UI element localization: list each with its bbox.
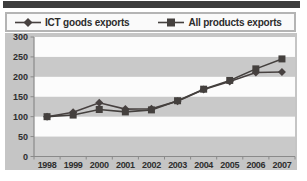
svg-text:300: 300 (13, 33, 28, 42)
legend-item-ict-goods-exports: ICT goods exports (15, 17, 129, 28)
svg-text:2001: 2001 (116, 160, 135, 170)
legend-label-ict-goods-exports: ICT goods exports (45, 17, 129, 28)
chart-legend: ICT goods exports All products exports (5, 12, 296, 32)
legend-item-all-products-exports: All products exports (158, 17, 281, 28)
diamond-marker-icon (15, 17, 41, 28)
svg-text:150: 150 (13, 92, 28, 102)
svg-text:2002: 2002 (142, 160, 161, 170)
svg-text:2000: 2000 (90, 160, 109, 170)
plot-area: 0501001502002503001998199920002001200220… (5, 33, 297, 170)
chart-figure: ICT goods exports All products exports 0… (0, 0, 307, 181)
svg-text:0: 0 (23, 152, 28, 162)
chart-canvas: 0501001502002503001998199920002001200220… (5, 33, 297, 170)
svg-text:250: 250 (13, 52, 28, 62)
svg-text:2005: 2005 (220, 160, 239, 170)
svg-text:2007: 2007 (273, 160, 292, 170)
svg-text:1999: 1999 (64, 160, 83, 170)
svg-text:1998: 1998 (38, 160, 57, 170)
top-bar (3, 1, 300, 8)
svg-text:2006: 2006 (246, 160, 265, 170)
svg-text:50: 50 (18, 132, 28, 142)
legend-label-all-products-exports: All products exports (188, 17, 281, 28)
square-marker-icon (158, 17, 184, 28)
svg-text:100: 100 (13, 112, 28, 122)
svg-text:200: 200 (13, 72, 28, 82)
svg-text:2003: 2003 (168, 160, 187, 170)
svg-text:2004: 2004 (194, 160, 213, 170)
